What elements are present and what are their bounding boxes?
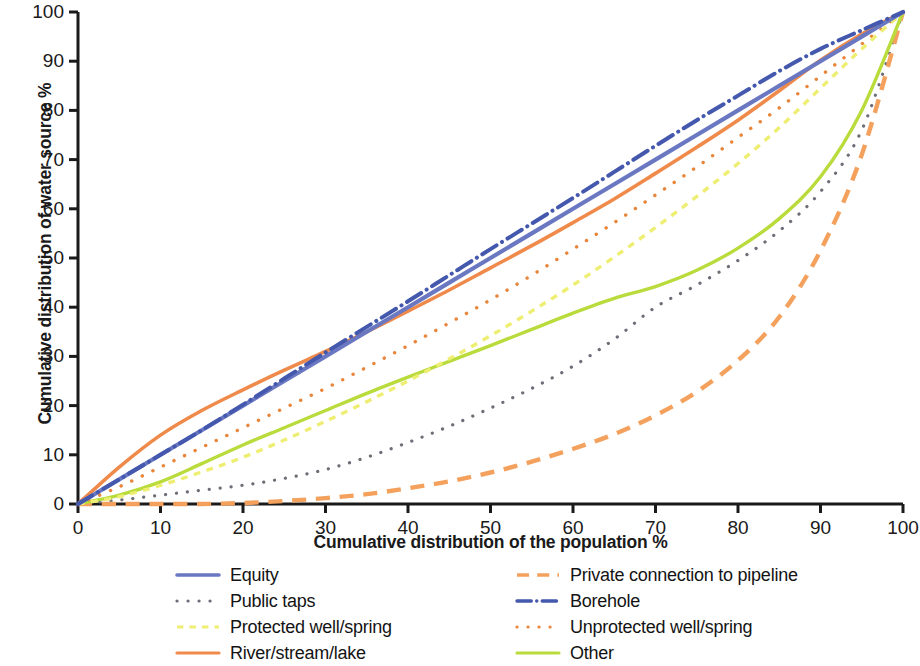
y-tick-label: 30 [12, 345, 64, 367]
y-tick-label: 70 [12, 149, 64, 171]
legend-swatch-icon [176, 645, 220, 661]
legend-swatch-icon [176, 593, 220, 609]
legend-swatch-icon [176, 619, 220, 635]
legend-label: Private connection to pipeline [570, 565, 798, 586]
legend-item-other[interactable]: Other [516, 640, 876, 666]
x-tick-label: 70 [645, 517, 666, 539]
legend-label: Protected well/spring [230, 617, 392, 638]
x-tick-label: 10 [150, 517, 171, 539]
y-tick-label: 20 [12, 395, 64, 417]
x-tick-label: 30 [315, 517, 336, 539]
legend-item-unprotected-well-spring[interactable]: Unprotected well/spring [516, 614, 876, 640]
legend-swatch-icon [516, 619, 560, 635]
x-tick-label: 60 [562, 517, 583, 539]
legend-swatch-icon [176, 567, 220, 583]
legend-item-public-taps[interactable]: Public taps [176, 588, 516, 614]
y-tick-label: 50 [12, 247, 64, 269]
series-group [78, 12, 903, 504]
y-tick-label: 60 [12, 198, 64, 220]
legend-item-borehole[interactable]: Borehole [516, 588, 876, 614]
x-tick-label: 0 [73, 517, 84, 539]
legend-label: River/stream/lake [230, 643, 366, 664]
legend-label: Other [570, 643, 614, 664]
y-tick-label: 0 [12, 493, 64, 515]
legend-item-protected-well-spring[interactable]: Protected well/spring [176, 614, 516, 640]
x-tick-label: 40 [397, 517, 418, 539]
legend-swatch-icon [516, 593, 560, 609]
x-tick-label: 20 [232, 517, 253, 539]
legend-item-river-stream-lake[interactable]: River/stream/lake [176, 640, 516, 666]
chart-legend: EquityPrivate connection to pipelinePubl… [176, 562, 876, 666]
y-tick-label: 40 [12, 296, 64, 318]
legend-label: Public taps [230, 591, 315, 612]
x-tick-label: 100 [887, 517, 919, 539]
legend-label: Unprotected well/spring [570, 617, 752, 638]
lorenz-curve-figure: Cumulative distribution of water source … [0, 0, 920, 666]
legend-swatch-icon [516, 567, 560, 583]
y-tick-label: 90 [12, 50, 64, 72]
y-tick-label: 80 [12, 99, 64, 121]
y-tick-label: 100 [12, 1, 64, 23]
x-tick-label: 50 [480, 517, 501, 539]
legend-label: Borehole [570, 591, 640, 612]
y-tick-label: 10 [12, 444, 64, 466]
legend-label: Equity [230, 565, 279, 586]
legend-item-private-connection-to-pipeline[interactable]: Private connection to pipeline [516, 562, 876, 588]
x-tick-label: 80 [727, 517, 748, 539]
x-tick-label: 90 [810, 517, 831, 539]
legend-item-equity[interactable]: Equity [176, 562, 516, 588]
legend-swatch-icon [516, 645, 560, 661]
